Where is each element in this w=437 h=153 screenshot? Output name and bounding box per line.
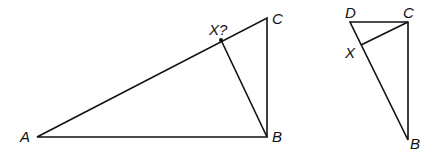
label-x2: X: [344, 44, 356, 61]
label-b: B: [272, 128, 282, 145]
label-b2: B: [410, 135, 420, 152]
segment-xb: [221, 40, 267, 137]
figure-right-triangle: D C B X: [344, 4, 420, 152]
figure-left-triangle: A B C X?: [19, 10, 283, 145]
triangle-dcb: [350, 22, 408, 140]
triangle-abc: [37, 18, 267, 137]
label-c2: C: [403, 4, 414, 21]
geometry-figures: A B C X? D C B X: [0, 0, 437, 153]
point-x-marker: [219, 38, 223, 42]
segment-xc: [361, 22, 408, 45]
label-c: C: [272, 10, 283, 27]
label-x: X?: [208, 21, 228, 38]
diagram-canvas: A B C X? D C B X: [0, 0, 437, 153]
label-a: A: [19, 128, 30, 145]
label-d: D: [345, 4, 356, 21]
